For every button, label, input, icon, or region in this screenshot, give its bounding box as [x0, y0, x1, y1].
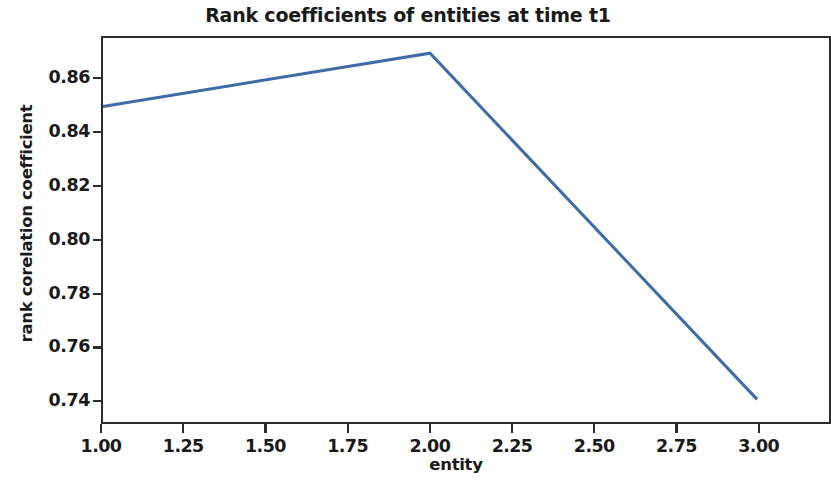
y-axis-tick-label: 0.80 — [0, 229, 90, 249]
x-axis-tick-mark — [429, 424, 431, 433]
x-axis-tick-label: 2.00 — [385, 436, 475, 456]
x-axis-label: entity — [101, 455, 811, 474]
x-axis-tick-label: 2.75 — [631, 436, 721, 456]
x-axis-tick-mark — [347, 424, 349, 433]
plot-surface — [103, 38, 829, 422]
x-axis-tick-label: 2.50 — [549, 436, 639, 456]
x-axis-tick-label: 1.00 — [56, 436, 146, 456]
x-axis-tick-mark — [511, 424, 513, 433]
x-axis-tick-mark — [264, 424, 266, 433]
x-axis-tick-mark — [182, 424, 184, 433]
chart-title: Rank coefficients of entities at time t1 — [0, 4, 816, 26]
y-axis-tick-label: 0.76 — [0, 336, 90, 356]
x-axis-tick-label: 1.50 — [220, 436, 310, 456]
plot-axes-frame — [101, 36, 831, 424]
x-axis-tick-mark — [593, 424, 595, 433]
y-axis-tick-label: 0.78 — [0, 283, 90, 303]
x-axis-tick-label: 1.75 — [303, 436, 393, 456]
x-axis-tick-label: 3.00 — [714, 436, 804, 456]
x-axis-tick-label: 1.25 — [138, 436, 228, 456]
data-line-series — [103, 53, 757, 399]
x-axis-tick-label: 2.25 — [467, 436, 557, 456]
x-axis-tick-mark — [675, 424, 677, 433]
y-axis-tick-label: 0.84 — [0, 121, 90, 141]
y-axis-tick-label: 0.86 — [0, 67, 90, 87]
y-axis-tick-label: 0.74 — [0, 390, 90, 410]
x-axis-tick-mark — [758, 424, 760, 433]
x-axis-tick-mark — [100, 424, 102, 433]
y-axis-tick-label: 0.82 — [0, 175, 90, 195]
